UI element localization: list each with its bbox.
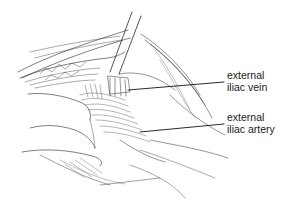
dissection-field (80, 76, 165, 162)
retracted-abdominal-wall (18, 30, 130, 88)
right-side-tissue (130, 34, 228, 198)
label-external-iliac-vein: external iliac vein (227, 69, 267, 93)
label-line-1: external (227, 111, 275, 123)
label-line-2: iliac vein (227, 81, 267, 93)
label-line-2: iliac artery (227, 123, 275, 135)
label-external-iliac-artery: external iliac artery (227, 111, 275, 135)
retractor-blade (110, 12, 175, 90)
anatomical-illustration (0, 0, 290, 200)
artery-pointer-line (140, 124, 224, 132)
label-line-1: external (227, 69, 267, 81)
